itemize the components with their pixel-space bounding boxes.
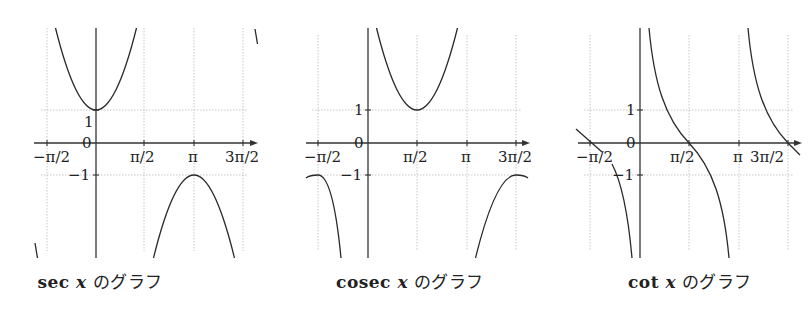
caption-suffix: のグラフ <box>408 272 484 292</box>
svg-text:π: π <box>188 148 198 166</box>
cosec-branch-left <box>306 175 341 258</box>
svg-text:π: π <box>733 148 743 166</box>
svg-text:π/2: π/2 <box>670 148 694 166</box>
svg-text:−1: −1 <box>612 166 634 184</box>
svg-text:0: 0 <box>82 134 92 152</box>
caption-suffix: のグラフ <box>676 272 752 292</box>
caption-var: x <box>665 272 676 292</box>
cosec-caption: cosec x のグラフ <box>310 268 510 293</box>
caption-var: x <box>397 272 408 292</box>
sec-caption: sec x のグラフ <box>0 268 200 293</box>
svg-text:1: 1 <box>626 101 636 119</box>
caption-fn: cot <box>628 272 659 292</box>
svg-text:−π/2: −π/2 <box>304 148 341 166</box>
cot-caption: cot x のグラフ <box>590 268 790 293</box>
cosec-branch-right <box>476 175 529 258</box>
svg-text:3π/2: 3π/2 <box>750 148 784 166</box>
svg-text:3π/2: 3π/2 <box>498 148 532 166</box>
cosec-graph: −π/2 π/2 π 3π/2 1 0 −1 <box>304 28 532 258</box>
svg-text:0: 0 <box>354 134 364 152</box>
caption-fn: sec <box>37 272 69 292</box>
caption-var: x <box>76 272 87 292</box>
cosec-axes <box>306 28 530 258</box>
sec-grid <box>41 28 248 251</box>
cot-branch-right <box>748 28 800 155</box>
svg-text:−π/2: −π/2 <box>576 148 613 166</box>
svg-text:π: π <box>461 148 471 166</box>
sec-tick-labels: −π/2 π/2 π 3π/2 1 0 −1 <box>33 113 259 184</box>
cot-axes <box>578 28 802 258</box>
svg-text:π/2: π/2 <box>130 148 154 166</box>
cot-graph: −π/2 π/2 π 3π/2 1 0 −1 <box>576 28 802 258</box>
svg-text:3π/2: 3π/2 <box>225 148 259 166</box>
svg-text:0: 0 <box>626 134 636 152</box>
caption-suffix: のグラフ <box>87 272 163 292</box>
svg-text:π/2: π/2 <box>403 148 427 166</box>
svg-text:1: 1 <box>84 113 94 131</box>
svg-text:−1: −1 <box>340 166 362 184</box>
sec-branch-far-left <box>35 243 38 258</box>
sec-graph: −π/2 π/2 π 3π/2 1 0 −1 <box>33 28 259 258</box>
svg-text:−1: −1 <box>68 166 90 184</box>
caption-fn: cosec <box>336 272 391 292</box>
sec-branch-far-right <box>255 29 258 44</box>
trig-graphs-canvas: −π/2 π/2 π 3π/2 1 0 −1 <box>0 0 810 310</box>
svg-text:−π/2: −π/2 <box>33 148 70 166</box>
svg-text:1: 1 <box>354 101 364 119</box>
